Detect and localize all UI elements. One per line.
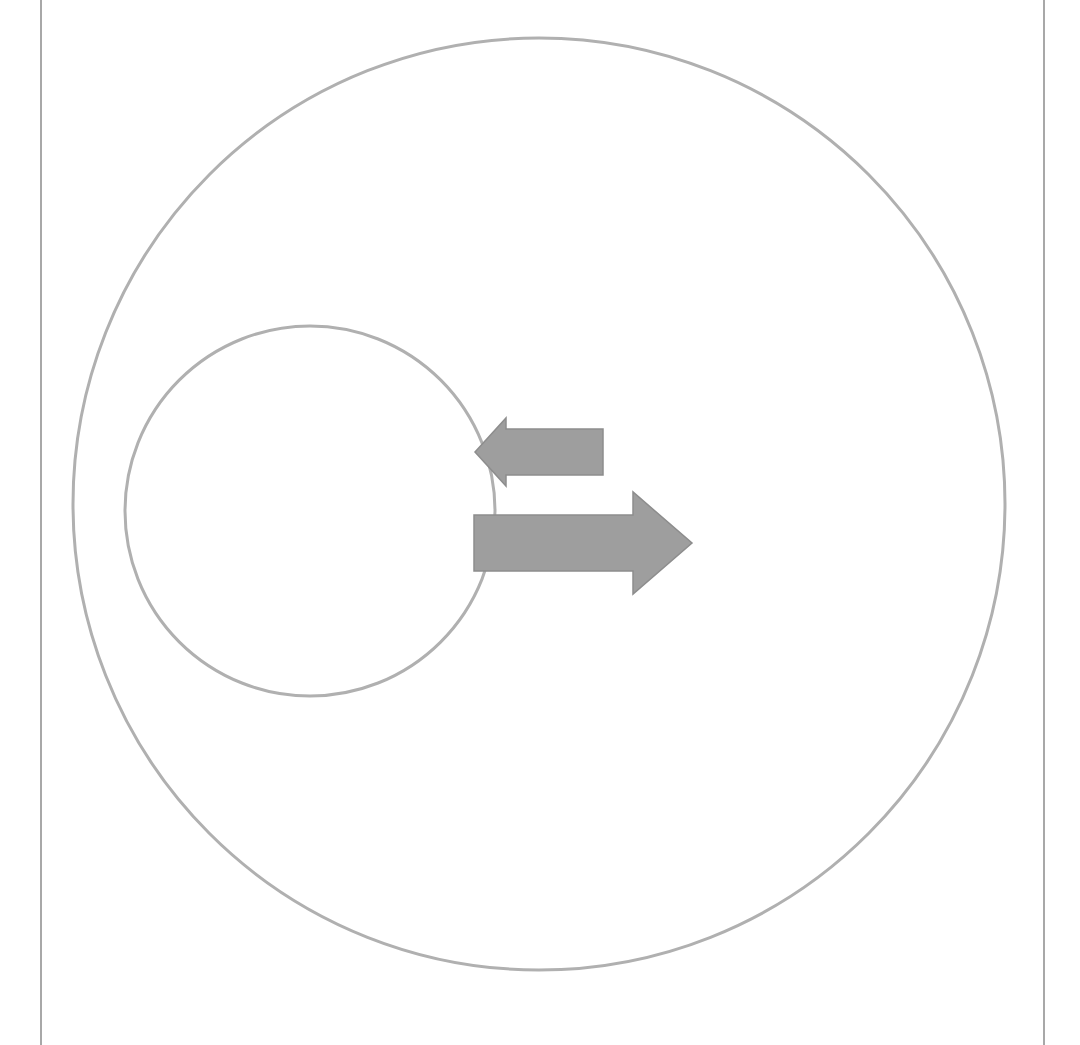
diagram-canvas — [0, 0, 1080, 1045]
diagram-svg — [0, 0, 1080, 1045]
